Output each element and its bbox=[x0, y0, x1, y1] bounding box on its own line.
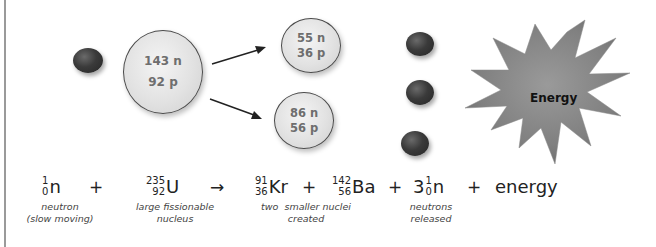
released-neutrons-isotope: 3 10 n bbox=[413, 175, 444, 197]
released-neutron-icon-3 bbox=[401, 131, 429, 156]
atomic-number: 0 bbox=[425, 186, 431, 197]
mass-number: 235 bbox=[146, 175, 165, 186]
caption-line: nucleus bbox=[128, 213, 222, 225]
mass-number: 1 bbox=[42, 175, 48, 186]
neutron-isotope: 10 n bbox=[42, 175, 61, 197]
caption-line: released bbox=[405, 213, 457, 225]
mass-number: 1 bbox=[425, 175, 431, 186]
plus-sign: + bbox=[302, 177, 316, 197]
barium-neutron-count: 86 n bbox=[290, 106, 318, 120]
caption-line: (slow moving) bbox=[22, 213, 98, 225]
released-neutron-icon-2 bbox=[406, 80, 434, 105]
atomic-number: 92 bbox=[152, 186, 165, 197]
arrow-down-right-icon bbox=[208, 95, 268, 125]
barium-proton-count: 56 p bbox=[290, 121, 318, 135]
uranium-nucleus: 143 n 92 p bbox=[123, 30, 203, 114]
energy-term: energy bbox=[495, 176, 558, 197]
krypton-proton-count: 36 p bbox=[297, 46, 325, 60]
caption-uranium: large fissionable nucleus bbox=[128, 201, 222, 225]
krypton-neutron-count: 55 n bbox=[297, 31, 325, 45]
atomic-number: 56 bbox=[338, 186, 351, 197]
barium-isotope: 14256 Ba bbox=[332, 175, 375, 197]
caption-line: two smaller nuclei bbox=[258, 201, 354, 213]
caption-neutrons: neutrons released bbox=[405, 201, 457, 225]
caption-line: large fissionable bbox=[128, 201, 222, 213]
left-border bbox=[4, 0, 6, 247]
uranium-neutron-count: 143 n bbox=[144, 54, 182, 69]
barium-nucleus: 86 n 56 p bbox=[274, 92, 334, 149]
arrow-up-right-icon bbox=[210, 40, 270, 70]
mass-number: 142 bbox=[332, 175, 351, 186]
element-symbol: Ba bbox=[352, 177, 375, 197]
caption-line: created bbox=[258, 213, 354, 225]
krypton-isotope: 9136 Kr bbox=[255, 175, 288, 197]
element-symbol: Kr bbox=[269, 177, 288, 197]
atomic-number: 0 bbox=[42, 186, 48, 197]
reaction-arrow: → bbox=[210, 177, 224, 197]
plus-sign: + bbox=[388, 177, 402, 197]
element-symbol: n bbox=[433, 177, 444, 197]
caption-line: neutrons bbox=[405, 201, 457, 213]
atomic-number: 36 bbox=[255, 186, 268, 197]
released-neutron-icon-1 bbox=[406, 32, 434, 56]
energy-label: Energy bbox=[530, 91, 577, 105]
coefficient: 3 bbox=[413, 177, 424, 197]
caption-line: neutron bbox=[22, 201, 98, 213]
uranium-proton-count: 92 p bbox=[148, 75, 177, 90]
krypton-nucleus: 55 n 36 p bbox=[281, 18, 341, 73]
incoming-neutron-icon bbox=[73, 48, 103, 73]
plus-sign: + bbox=[89, 177, 103, 197]
caption-neutron: neutron (slow moving) bbox=[22, 201, 98, 225]
element-symbol: n bbox=[49, 177, 60, 197]
mass-number: 91 bbox=[255, 175, 268, 186]
plus-sign: + bbox=[467, 177, 481, 197]
uranium-isotope: 23592 U bbox=[146, 175, 179, 197]
caption-products: two smaller nuclei created bbox=[258, 201, 354, 225]
element-symbol: U bbox=[166, 177, 179, 197]
